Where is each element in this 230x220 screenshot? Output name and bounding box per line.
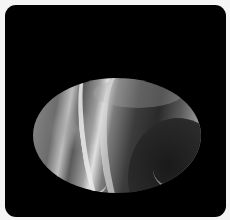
stone-band <box>153 148 201 191</box>
image-card <box>5 5 226 217</box>
marbled-oval-stone <box>33 78 201 193</box>
